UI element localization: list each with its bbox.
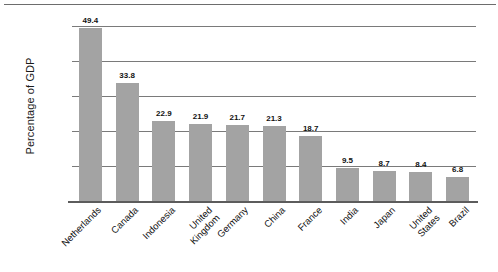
bar-value-label: 18.7	[295, 125, 327, 133]
bar	[152, 121, 175, 201]
bar-value-label: 9.5	[331, 157, 363, 165]
bar	[189, 124, 212, 201]
bar-value-label: 6.8	[442, 166, 474, 174]
bar-value-label: 8.4	[405, 161, 437, 169]
bar	[446, 177, 469, 201]
bar-value-label: 22.9	[148, 110, 180, 118]
bar	[79, 28, 102, 201]
bar-value-label: 33.8	[111, 72, 143, 80]
y-axis-title: Percentage of GDP	[24, 16, 36, 196]
gridline-50	[72, 26, 476, 27]
bar-value-label: 21.3	[258, 115, 290, 123]
gridline-40	[72, 61, 476, 62]
x-axis-baseline	[68, 201, 478, 203]
bar-value-label: 49.4	[74, 17, 106, 25]
page-top-rule	[4, 4, 496, 5]
bar-value-label: 21.7	[221, 114, 253, 122]
bar	[373, 171, 396, 201]
bar	[409, 172, 432, 201]
bar	[116, 83, 139, 201]
bar-value-label: 8.7	[368, 160, 400, 168]
plot-area: 49.433.822.921.921.721.318.79.58.78.46.8	[72, 26, 476, 201]
bar-chart-figure: Percentage of GDP 01020304050 49.433.822…	[0, 0, 498, 272]
bar-value-label: 21.9	[185, 113, 217, 121]
bar	[299, 136, 322, 201]
bar	[263, 126, 286, 201]
bar	[336, 168, 359, 201]
bar	[226, 125, 249, 201]
